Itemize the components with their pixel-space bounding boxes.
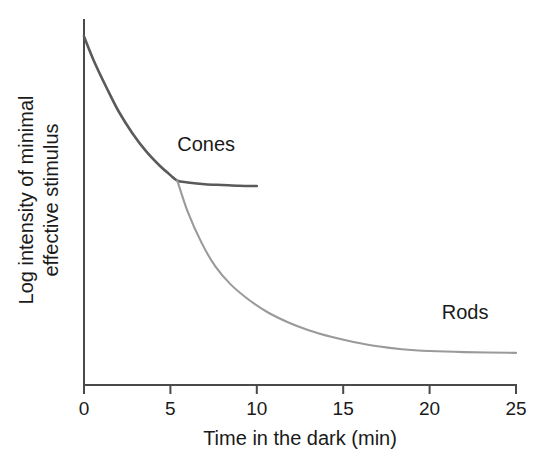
- series-label-cones: Cones: [177, 133, 235, 155]
- x-axis-ticks: [84, 385, 516, 394]
- series-line-rods: [177, 181, 516, 353]
- x-axis-tick-label: 15: [323, 398, 363, 420]
- x-axis-label: Time in the dark (min): [84, 427, 516, 450]
- dark-adaptation-chart: 0510152025 Time in the dark (min) Log in…: [0, 0, 552, 465]
- series-label-rods: Rods: [442, 301, 489, 323]
- x-axis-tick-label: 10: [237, 398, 277, 420]
- series-line-cones: [84, 36, 257, 186]
- y-axis-label-line2: effective stimulus: [39, 96, 64, 305]
- x-axis-tick-label: 20: [410, 398, 450, 420]
- y-axis-label: Log intensity of minimal effective stimu…: [14, 96, 64, 305]
- x-axis-tick-label: 25: [496, 398, 536, 420]
- x-axis-tick-label: 0: [64, 398, 104, 420]
- chart-plot-area: [0, 0, 552, 465]
- y-axis-label-container: Log intensity of minimal effective stimu…: [0, 0, 78, 400]
- y-axis-label-line1: Log intensity of minimal: [15, 96, 37, 305]
- x-axis-tick-label: 5: [150, 398, 190, 420]
